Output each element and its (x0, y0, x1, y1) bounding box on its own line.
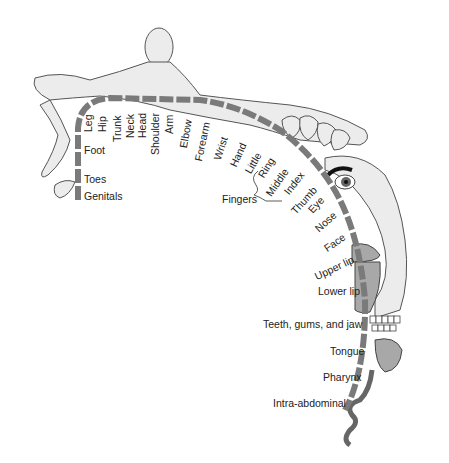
label-head: Head (137, 113, 148, 138)
fingers-bracket (238, 165, 288, 205)
label-leg: Leg (83, 114, 94, 132)
label-tongue: Tongue (330, 346, 364, 357)
label-shoulder: Shoulder (150, 113, 161, 155)
label-hip: Hip (97, 116, 108, 132)
label-intra-abdominal: Intra-abdominal (273, 398, 346, 409)
label-toes: Toes (84, 174, 106, 185)
teeth-drawing (370, 316, 400, 331)
label-teeth: Teeth, gums, and jaw (263, 319, 362, 330)
label-neck: Neck (125, 114, 136, 138)
label-genitals: Genitals (84, 191, 123, 202)
tongue-drawing (375, 339, 402, 372)
label-pharynx: Pharynx (323, 372, 362, 383)
label-trunk: Trunk (112, 116, 123, 142)
label-arm: Arm (164, 115, 175, 134)
label-foot: Foot (84, 145, 105, 156)
label-lower-lip: Lower lip (318, 286, 360, 297)
homunculus-illustration (0, 0, 449, 463)
